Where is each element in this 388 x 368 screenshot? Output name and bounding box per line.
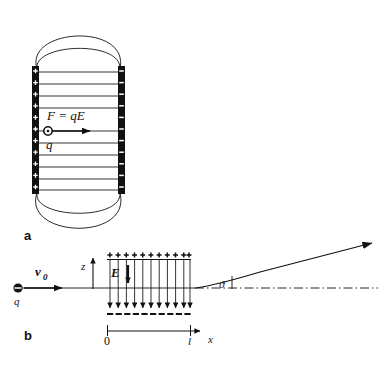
fringe-field-lines-top: [36, 36, 121, 69]
fringe-arc-top-inner: [37, 48, 120, 69]
velocity-label: v: [35, 264, 41, 279]
panel-b-label: b: [24, 328, 32, 343]
top-plate-plus-marks: [107, 253, 191, 258]
z-axis-label: z: [80, 260, 86, 272]
velocity-subscript-label: 0: [43, 272, 48, 282]
charge-particle-a: [44, 127, 52, 135]
E-field-label: E: [110, 265, 120, 280]
charge-label-a: q: [46, 137, 53, 152]
capacitor-field-arrows: [110, 260, 190, 308]
charge-particle-b: [13, 283, 22, 292]
deflection-angle-label: ϑ: [219, 278, 225, 290]
fringe-field-lines-bottom: [36, 193, 121, 228]
panel-b-group: [13, 243, 378, 336]
x-axis-label: x: [207, 333, 213, 345]
physics-figure: F = qE q a v 0 q z E ϑ 0 l x b: [0, 0, 388, 368]
force-equation-label: F = qE: [46, 108, 85, 123]
panel-a-group: [32, 36, 125, 228]
figure-canvas: F = qE q a v 0 q z E ϑ 0 l x b: [0, 0, 388, 368]
fringe-arc-bottom-inner: [37, 193, 120, 213]
fringe-arc-bottom-outer: [36, 193, 121, 228]
negative-plate: [118, 66, 125, 194]
charge-label-b: q: [14, 295, 20, 307]
charge-dot-a: [47, 130, 50, 133]
x-axis-length-label: l: [188, 335, 191, 347]
x-axis-origin-label: 0: [104, 334, 110, 348]
fringe-arc-top-outer: [36, 36, 121, 69]
panel-a-label: a: [24, 228, 32, 243]
positive-plate: [32, 66, 39, 194]
